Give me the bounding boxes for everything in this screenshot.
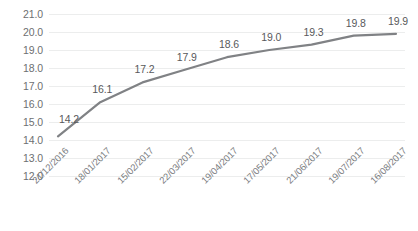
- line-chart: 12.013.014.015.016.017.018.019.020.021.0…: [0, 0, 418, 231]
- y-tick-label: 20.0: [23, 26, 43, 38]
- data-point-label: 16.1: [92, 83, 112, 95]
- y-tick-label: 13.0: [23, 152, 43, 164]
- y-tick-label: 19.0: [23, 44, 43, 56]
- y-tick-label: 18.0: [23, 62, 43, 74]
- y-axis: 12.013.014.015.016.017.018.019.020.021.0: [0, 14, 46, 176]
- x-axis: 21/12/201618/01/201715/02/201722/03/2017…: [49, 176, 405, 231]
- data-point-label: 17.2: [134, 63, 154, 75]
- y-tick-label: 15.0: [23, 116, 43, 128]
- data-point-label: 14.2: [59, 113, 79, 125]
- data-point-label: 19.8: [346, 17, 366, 29]
- y-tick-label: 17.0: [23, 80, 43, 92]
- y-tick-label: 16.0: [23, 98, 43, 110]
- y-tick-label: 14.0: [23, 134, 43, 146]
- data-point-label: 18.6: [219, 38, 239, 50]
- data-point-label: 19.3: [303, 26, 323, 38]
- data-point-label: 17.9: [177, 51, 197, 63]
- data-point-label: 19.0: [261, 31, 281, 43]
- data-point-label: 19.9: [388, 15, 408, 27]
- y-tick-label: 21.0: [23, 8, 43, 20]
